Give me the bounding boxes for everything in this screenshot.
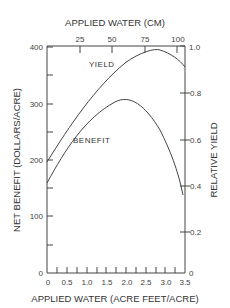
y2-tick-0.8: 0.8 [190, 89, 202, 98]
y2-tick-0.6: 0.6 [190, 136, 202, 145]
y-tick-300: 300 [30, 100, 44, 109]
yield-label: YIELD [89, 60, 115, 69]
y-tick-100: 100 [30, 212, 44, 221]
plot-frame [47, 46, 185, 273]
benefit-label: BENEFIT [73, 136, 110, 145]
left-axis-ticks [47, 47, 53, 245]
x-tick-1.0: 1.0 [81, 278, 93, 287]
y2-tick-1.0: 1.0 [189, 43, 201, 52]
bottom-axis-title: APPLIED WATER (ACRE FEET/ACRE) [31, 293, 198, 304]
x2-tick-50: 50 [108, 35, 117, 44]
bottom-axis-ticks [57, 267, 175, 273]
y-tick-400: 400 [30, 43, 44, 52]
bottom-axis-labels: 0 0.5 1.0 1.5 2.0 2.5 3.0 3.5 [46, 278, 191, 287]
x-tick-1.5: 1.5 [101, 278, 113, 287]
x-tick-0: 0 [46, 278, 51, 287]
top-axis-ticks [80, 46, 177, 53]
x-tick-0.5: 0.5 [61, 278, 73, 287]
x2-tick-75: 75 [141, 35, 150, 44]
top-axis-title: APPLIED WATER (CM) [65, 17, 165, 28]
x2-tick-100: 100 [171, 35, 185, 44]
y-tick-200: 200 [30, 156, 44, 165]
right-axis-title: RELATIVE YIELD [208, 122, 219, 197]
y-tick-0: 0 [39, 269, 44, 278]
x-tick-2.0: 2.0 [121, 278, 133, 287]
y2-tick-0.2: 0.2 [190, 228, 202, 237]
chart: 0 100 200 300 400 0 0.2 0.4 0.6 0.8 1.0 [0, 0, 230, 308]
x-tick-3.0: 3.0 [160, 278, 172, 287]
y2-tick-0: 0 [189, 269, 194, 278]
x2-tick-25: 25 [76, 35, 85, 44]
right-axis-labels: 0 0.2 0.4 0.6 0.8 1.0 [189, 43, 202, 278]
left-axis-title: NET BENEFIT (DOLLARS/ACRE) [11, 88, 22, 232]
left-axis-labels: 0 100 200 300 400 [30, 43, 44, 278]
yield-curve [47, 50, 185, 162]
benefit-curve [47, 99, 183, 195]
x-tick-2.5: 2.5 [140, 278, 152, 287]
top-axis-labels: 25 50 75 100 [76, 35, 186, 44]
y2-tick-0.4: 0.4 [190, 182, 202, 191]
x-tick-3.5: 3.5 [179, 278, 191, 287]
